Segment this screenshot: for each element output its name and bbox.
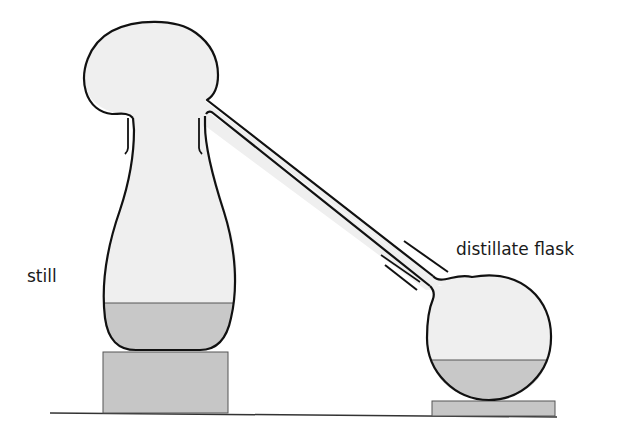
still-joint-left (125, 118, 128, 154)
still-vessel (83, 22, 470, 350)
distillate-flask-liquid (432, 360, 547, 400)
distillate-flask-label: distillate flask (456, 239, 574, 259)
flask-stand (432, 401, 555, 416)
still-label: still (27, 266, 57, 286)
distillation-diagram: still distillate flask (0, 0, 626, 448)
still-liquid (104, 303, 233, 350)
still-stand (103, 352, 228, 413)
diagram-svg (0, 0, 626, 448)
